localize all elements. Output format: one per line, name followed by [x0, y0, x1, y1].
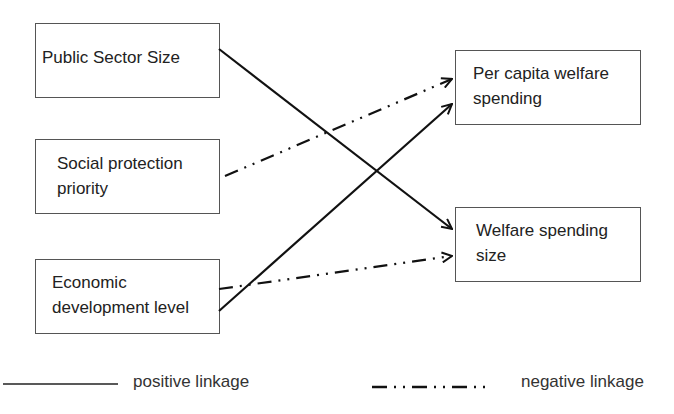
legend-positive-label: positive linkage — [133, 372, 249, 392]
edge-social-protection-to-per-capita — [225, 79, 452, 176]
legend-negative-label: negative linkage — [521, 372, 644, 392]
edge-economic-dev-to-per-capita — [219, 104, 452, 311]
edge-public-sector-to-welfare-size — [219, 49, 452, 229]
edge-economic-dev-to-welfare-size — [219, 256, 452, 289]
edges-layer — [0, 0, 674, 414]
